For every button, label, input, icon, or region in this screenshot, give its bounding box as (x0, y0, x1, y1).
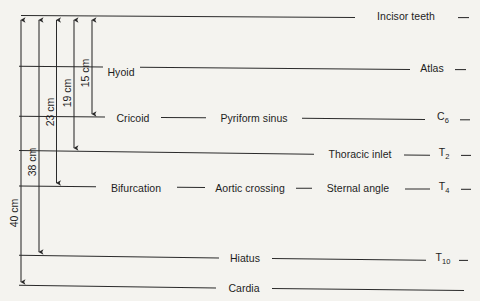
rule-cardia-left (19, 285, 216, 288)
esophageal-landmark-diagram: 40 cm 38 cm 23 cm 19 cm 15 cm Incisor te… (0, 0, 480, 301)
horizontal-landmark-rules (19, 16, 471, 291)
label-atlas: Atlas (420, 63, 444, 74)
label-vertebra-t4: T4 (439, 181, 450, 195)
rule-hiatus-left (19, 255, 219, 258)
measure-label-19cm: 19 cm (62, 79, 73, 108)
rule-hiatus-right (272, 258, 426, 260)
rule-cardia-right (272, 288, 464, 290)
vertebra-t10-number: 10 (442, 257, 450, 266)
vertebra-c6-letter: C (437, 110, 445, 122)
measure-label-38cm: 38 cm (27, 148, 38, 177)
rule-thoracic-inlet-line (19, 151, 314, 155)
measure-label-23cm: 23 cm (45, 98, 56, 127)
label-cricoid: Cricoid (116, 113, 149, 124)
label-hyoid: Hyoid (107, 67, 134, 78)
label-incisor-teeth: Incisor teeth (377, 11, 435, 22)
label-cardia: Cardia (228, 283, 259, 294)
label-bifurcation: Bifurcation (111, 183, 161, 194)
rule-bifurcation-left (19, 186, 96, 187)
rule-pyriform-line (302, 118, 425, 119)
rule-cricoid-left (19, 116, 105, 117)
vertebra-t2-number: 2 (445, 152, 449, 161)
vertebra-t4-number: 4 (445, 186, 449, 195)
vertebra-c6-number: 6 (445, 116, 449, 125)
label-vertebra-c6: C6 (437, 111, 449, 125)
label-aortic-crossing: Aortic crossing (215, 183, 285, 194)
label-vertebra-t10: T10 (436, 252, 451, 266)
rule-atlas-line (140, 67, 410, 69)
measure-label-15cm: 15 cm (80, 59, 91, 88)
label-hiatus: Hiatus (230, 253, 260, 264)
label-vertebra-t2: T2 (439, 147, 450, 161)
rule-incisor-main (21, 16, 355, 18)
label-pyriform-sinus: Pyriform sinus (220, 113, 287, 124)
measure-label-40cm: 40 cm (9, 199, 20, 228)
label-sternal-angle: Sternal angle (327, 183, 390, 194)
label-thoracic-inlet: Thoracic inlet (328, 149, 391, 160)
